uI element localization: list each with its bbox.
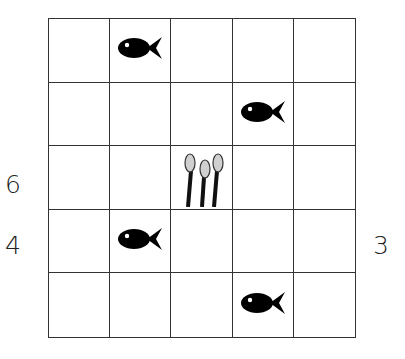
grid-cell[interactable]: [110, 146, 171, 210]
grid-cell[interactable]: [233, 83, 294, 147]
puzzle-grid: [48, 18, 356, 338]
fish-icon: [240, 290, 286, 320]
grid-cell[interactable]: [49, 19, 110, 83]
grid-cell[interactable]: [171, 273, 232, 337]
grid-cell[interactable]: [110, 273, 171, 337]
fish-icon: [117, 35, 163, 65]
grid-cell[interactable]: [294, 210, 355, 274]
grid-cell[interactable]: [233, 210, 294, 274]
grid-cell[interactable]: [294, 273, 355, 337]
row-clue-left-4: 4: [5, 231, 21, 260]
grid-cell[interactable]: [110, 19, 171, 83]
fish-icon: [117, 226, 163, 256]
grid-cell[interactable]: [49, 146, 110, 210]
grid-cell[interactable]: [294, 19, 355, 83]
reeds-icon: [176, 151, 226, 211]
grid-cell[interactable]: [171, 146, 232, 210]
grid-cell[interactable]: [233, 273, 294, 337]
row-clue-right-4: 3: [373, 231, 389, 260]
grid-cell[interactable]: [294, 83, 355, 147]
grid-cell[interactable]: [110, 210, 171, 274]
grid-cell[interactable]: [294, 146, 355, 210]
grid-cell[interactable]: [233, 146, 294, 210]
grid-cell[interactable]: [110, 83, 171, 147]
grid-cell[interactable]: [171, 210, 232, 274]
grid-cell[interactable]: [49, 83, 110, 147]
grid-cell[interactable]: [171, 83, 232, 147]
row-clue-left-3: 6: [5, 170, 21, 199]
grid-cell[interactable]: [233, 19, 294, 83]
grid-cell[interactable]: [49, 210, 110, 274]
grid-cell[interactable]: [171, 19, 232, 83]
grid-cell[interactable]: [49, 273, 110, 337]
fish-icon: [240, 99, 286, 129]
